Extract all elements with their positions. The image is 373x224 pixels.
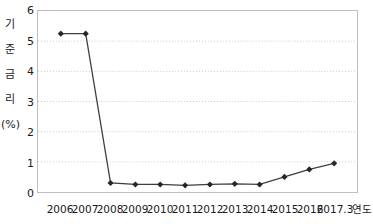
x-axis-title: 연도	[352, 203, 372, 215]
data-point-marker	[306, 166, 312, 172]
data-point-marker	[232, 181, 238, 187]
y-axis-tick-label: 4	[18, 66, 34, 77]
x-axis-tick-label: 2010	[147, 203, 174, 215]
y-axis-tick-label: 2	[18, 127, 34, 138]
data-point-marker	[58, 31, 64, 37]
data-point-marker	[281, 174, 287, 180]
x-axis-tick-label: 2014	[247, 203, 274, 215]
x-axis-tick-label: 2015	[272, 203, 299, 215]
series-line	[61, 34, 334, 186]
data-point-marker	[107, 180, 113, 186]
x-axis-tick-label: 2013	[222, 203, 249, 215]
data-point-marker	[132, 181, 138, 187]
y-axis-title-line-3: 금	[5, 68, 15, 81]
gridlines	[38, 41, 357, 162]
y-axis-title: 기 준 금 리 (%)	[1, 6, 19, 132]
y-axis-tick-labels: 0123456	[18, 0, 34, 224]
y-axis-tick-label: 6	[18, 5, 34, 16]
x-axis-tick-label: 2012	[197, 203, 224, 215]
plot-svg	[38, 11, 357, 192]
data-point-marker	[207, 181, 213, 187]
x-axis-tick-label: 2007	[72, 203, 99, 215]
y-axis-title-line-1: 기	[5, 18, 15, 31]
data-point-marker	[331, 160, 337, 166]
data-point-marker	[157, 181, 163, 187]
y-axis-tick-label: 0	[18, 188, 34, 199]
data-series	[58, 31, 337, 189]
data-point-marker	[182, 182, 188, 188]
x-axis-tick-label: 2009	[122, 203, 149, 215]
y-axis-tick-label: 1	[18, 157, 34, 168]
data-point-marker	[83, 31, 89, 37]
x-axis-tick-label: 2006	[47, 203, 74, 215]
x-axis-tick-label: 2008	[97, 203, 124, 215]
data-point-marker	[257, 181, 263, 187]
x-axis-tick-label: 2017.3	[317, 203, 354, 215]
y-axis-title-line-4: 리	[5, 93, 15, 106]
y-axis-tick-label: 5	[18, 35, 34, 46]
y-axis-title-line-2: 준	[5, 43, 15, 56]
x-axis-tick-labels: 2006200720082009201020112012201320142015…	[0, 203, 373, 219]
interest-rate-line-chart: 기 준 금 리 (%) 0123456 20062007200820092010…	[0, 0, 373, 224]
x-axis-tick-label: 2011	[172, 203, 199, 215]
plot-area	[37, 10, 358, 193]
y-axis-tick-label: 3	[18, 96, 34, 107]
